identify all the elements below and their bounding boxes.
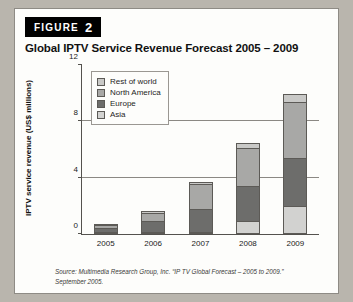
legend-swatch — [97, 89, 105, 97]
stacked-bar[interactable] — [141, 211, 165, 234]
y-tick-label: 4 — [74, 164, 78, 173]
bar-segment[interactable] — [94, 232, 118, 234]
source-line-2: September 2005. — [55, 277, 325, 287]
source-line-1: Source: Multimedia Research Group, Inc. … — [55, 267, 325, 277]
figure-badge-number: 2 — [85, 20, 92, 35]
bar-segment[interactable] — [236, 148, 260, 186]
y-tick-label: 12 — [69, 52, 78, 61]
bar-segment[interactable] — [283, 206, 307, 234]
legend-swatch — [97, 100, 105, 108]
figure-badge-word: FIGURE — [34, 22, 79, 33]
bar-segment[interactable] — [236, 186, 260, 221]
legend-label: Rest of world — [110, 77, 157, 86]
bar-segment[interactable] — [283, 94, 307, 103]
figure-card: FIGURE 2 Global IPTV Service Revenue For… — [14, 8, 339, 294]
legend-label: Europe — [110, 99, 136, 108]
bar-segment[interactable] — [283, 158, 307, 206]
bar-segment[interactable] — [141, 213, 165, 222]
x-tick-label: 2008 — [239, 239, 257, 248]
bar-segment[interactable] — [189, 232, 213, 234]
stacked-bar[interactable] — [94, 224, 118, 234]
legend-item[interactable]: Asia — [97, 109, 161, 120]
legend-item[interactable]: Rest of world — [97, 76, 161, 87]
stacked-bar[interactable] — [189, 182, 213, 234]
bar-segment[interactable] — [283, 102, 307, 157]
x-tick-label: 2009 — [286, 239, 304, 248]
y-axis-label: IPTV service revenue (US$ millions) — [24, 53, 38, 243]
bar-segment[interactable] — [236, 221, 260, 234]
legend-swatch — [97, 111, 105, 119]
legend-swatch — [97, 78, 105, 86]
chart-legend: Rest of worldNorth AmericaEuropeAsia — [91, 71, 169, 125]
bar-segment[interactable] — [141, 232, 165, 234]
bar-group: 2007 — [177, 65, 224, 234]
bar-segment[interactable] — [141, 221, 165, 232]
bar-group: 2009 — [272, 65, 319, 234]
source-note: Source: Multimedia Research Group, Inc. … — [55, 267, 325, 287]
y-tick-label: 0 — [74, 221, 78, 230]
bar-group: 2008 — [224, 65, 271, 234]
y-tick-label: 8 — [74, 108, 78, 117]
screenshot-root: FIGURE 2 Global IPTV Service Revenue For… — [0, 0, 353, 302]
legend-label: Asia — [110, 110, 126, 119]
x-tick-label: 2006 — [144, 239, 162, 248]
x-tick-label: 2005 — [97, 239, 115, 248]
bar-segment[interactable] — [189, 184, 213, 208]
figure-badge: FIGURE 2 — [25, 17, 101, 37]
bar-segment[interactable] — [189, 209, 213, 232]
x-tick-label: 2007 — [192, 239, 210, 248]
legend-item[interactable]: Europe — [97, 98, 161, 109]
chart-area: IPTV service revenue (US$ millions) 0481… — [43, 65, 329, 261]
legend-label: North America — [110, 88, 161, 97]
stacked-bar[interactable] — [236, 143, 260, 234]
page-title: Global IPTV Service Revenue Forecast 200… — [25, 42, 298, 54]
legend-item[interactable]: North America — [97, 87, 161, 98]
stacked-bar[interactable] — [283, 94, 307, 234]
